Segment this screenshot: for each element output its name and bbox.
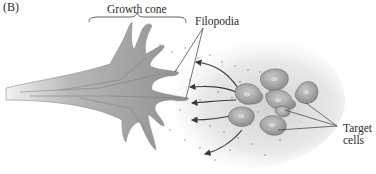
growth-cone-figure: (B) Growth cone Filopodia Target cells	[0, 0, 376, 174]
target-cells-label-line2: cells	[343, 134, 372, 146]
panel-label: (B)	[3, 1, 19, 14]
target-cells-label: Target cells	[343, 122, 372, 146]
growth-cone-label: Growth cone	[107, 3, 167, 15]
growth-cone-illustration	[0, 0, 376, 174]
target-cells-label-line1: Target	[343, 122, 372, 134]
filopodia-label: Filopodia	[195, 15, 239, 27]
